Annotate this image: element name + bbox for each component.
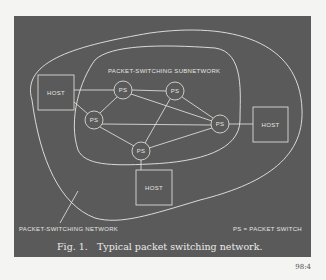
subnetwork-label: PACKET-SWITCHING SUBNETWORK [108, 68, 220, 74]
host-node-right: HOST [253, 107, 288, 142]
ps-node-1: PS [114, 81, 132, 99]
legend-label: PS = PACKET SWITCH [233, 226, 302, 232]
page-number: 98:4 [295, 263, 311, 271]
ps-node-2: PS [166, 82, 184, 100]
svg-text:PS: PS [216, 121, 225, 127]
figure-caption-number: Fig. 1. [57, 241, 88, 252]
network-label: PACKET-SWITCHING NETWORK [19, 226, 118, 232]
svg-text:HOST: HOST [262, 122, 280, 128]
ps-node-4: PS [211, 115, 229, 133]
packet-switching-diagram: HOST HOST HOST PS PS PS PS PS PACKET-SWI… [0, 0, 326, 280]
svg-text:PS: PS [137, 148, 146, 154]
svg-text:PS: PS [90, 117, 99, 123]
svg-text:PS: PS [171, 88, 180, 94]
ps-node-5: PS [132, 142, 150, 160]
svg-text:PS: PS [119, 87, 128, 93]
host-node-left: HOST [38, 75, 74, 110]
svg-text:HOST: HOST [145, 185, 163, 191]
host-node-bottom: HOST [136, 170, 172, 205]
figure-caption-text: Typical packet switching network. [97, 241, 262, 252]
ps-node-3: PS [85, 111, 103, 129]
svg-text:HOST: HOST [47, 90, 65, 96]
